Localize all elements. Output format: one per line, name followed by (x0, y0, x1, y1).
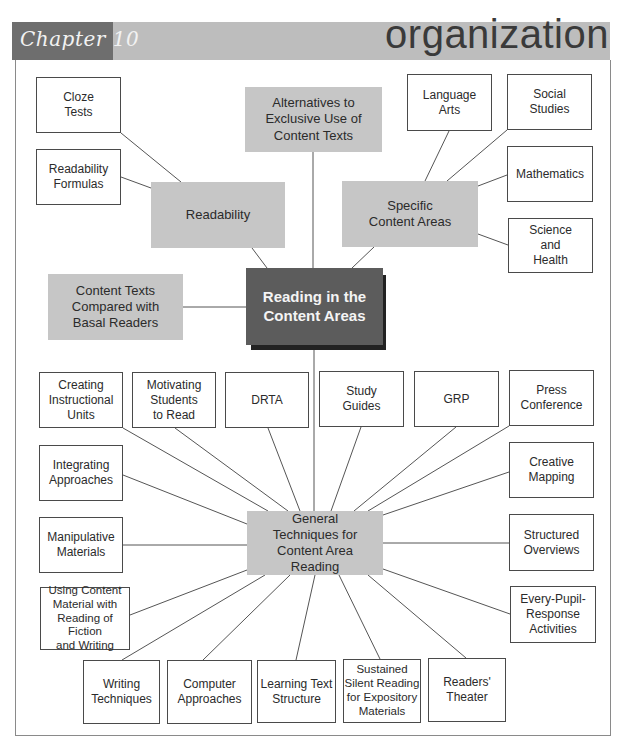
hub-node-general-techniques: General Techniques for Content Area Read… (247, 511, 383, 575)
leaf-node-drta: DRTA (225, 372, 309, 428)
node-label: Mathematics (516, 167, 584, 182)
leaf-node-press-conference: Press Conference (509, 370, 594, 426)
leaf-node-integrating-approaches: Integrating Approaches (39, 445, 123, 501)
node-label: Alternatives to Exclusive Use of Content… (265, 95, 361, 144)
core-node-reading-in-content-areas: Reading in the Content Areas (246, 268, 383, 345)
node-label: Learning Text Structure (261, 677, 333, 707)
node-label: Science and Health (529, 223, 572, 268)
node-label: Every-Pupil- Response Activities (520, 592, 585, 637)
leaf-node-cloze-tests: Cloze Tests (36, 77, 121, 133)
leaf-node-learning-text-structure: Learning Text Structure (257, 660, 336, 723)
node-label: Readers' Theater (443, 675, 491, 705)
hub-node-alternatives: Alternatives to Exclusive Use of Content… (245, 87, 382, 152)
node-label: Reading in the Content Areas (263, 288, 366, 326)
leaf-node-mathematics: Mathematics (507, 146, 593, 202)
node-label: Press Conference (520, 383, 582, 413)
leaf-node-manipulative-materials: Manipulative Materials (39, 517, 123, 573)
node-label: Cloze Tests (63, 90, 94, 120)
leaf-node-creating-instructional-units: Creating Instructional Units (39, 372, 123, 428)
leaf-node-every-pupil-response: Every-Pupil- Response Activities (510, 586, 596, 643)
leaf-node-social-studies: Social Studies (507, 74, 592, 130)
node-label: Language Arts (423, 88, 476, 118)
node-label: DRTA (251, 393, 283, 408)
leaf-node-readability-formulas: Readability Formulas (36, 149, 121, 205)
hub-node-specific-content-areas: Specific Content Areas (342, 181, 478, 247)
node-label: General Techniques for Content Area Read… (273, 511, 358, 576)
leaf-node-using-content-material: Using Content Material with Reading of F… (40, 587, 130, 650)
node-label: Specific Content Areas (369, 198, 451, 231)
leaf-node-grp: GRP (414, 371, 499, 427)
leaf-node-writing-techniques: Writing Techniques (83, 660, 160, 724)
node-label: GRP (443, 392, 469, 407)
node-label: Study Guides (342, 384, 380, 414)
leaf-node-motivating-students: Motivating Students to Read (132, 372, 216, 428)
leaf-node-language-arts: Language Arts (407, 74, 492, 131)
node-label: Computer Approaches (177, 677, 241, 707)
leaf-node-sustained-silent-reading: Sustained Silent Reading for Expository … (343, 659, 421, 723)
hub-node-readability: Readability (151, 182, 285, 248)
node-label: Creative Mapping (528, 455, 574, 485)
node-label: Social Studies (529, 87, 569, 117)
node-label: Writing Techniques (91, 677, 152, 707)
node-label: Readability (186, 207, 250, 223)
node-label: Readability Formulas (49, 162, 108, 192)
leaf-node-study-guides: Study Guides (319, 371, 404, 427)
node-label: Integrating Approaches (49, 458, 113, 488)
leaf-node-readers-theater: Readers' Theater (428, 658, 506, 722)
node-label: Motivating Students to Read (147, 378, 202, 423)
node-label: Content Texts Compared with Basal Reader… (72, 283, 159, 332)
hub-node-content-texts-compared: Content Texts Compared with Basal Reader… (48, 274, 183, 340)
leaf-node-structured-overviews: Structured Overviews (509, 514, 594, 571)
leaf-node-creative-mapping: Creative Mapping (509, 442, 594, 498)
node-label: Manipulative Materials (47, 530, 114, 560)
node-label: Using Content Material with Reading of F… (41, 584, 129, 653)
node-label: Sustained Silent Reading for Expository … (345, 663, 420, 718)
node-label: Creating Instructional Units (49, 378, 114, 423)
leaf-node-computer-approaches: Computer Approaches (167, 660, 252, 724)
leaf-node-science-and-health: Science and Health (508, 218, 593, 273)
node-label: Structured Overviews (523, 528, 579, 558)
